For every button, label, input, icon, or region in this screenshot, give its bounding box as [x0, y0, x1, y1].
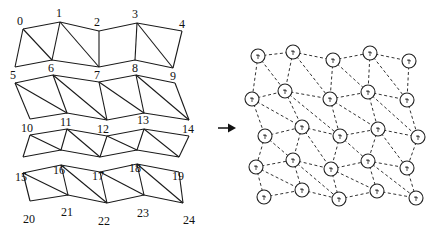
graph-node	[409, 191, 423, 205]
graph-node	[371, 122, 385, 136]
graph-node	[332, 192, 346, 206]
graph-edge	[331, 169, 377, 191]
graph-edge	[256, 167, 302, 190]
graph-node	[278, 84, 292, 98]
graph-node	[370, 184, 384, 198]
graph-edge	[370, 53, 407, 100]
graph-node	[295, 120, 309, 134]
graph-edges	[252, 52, 418, 199]
graph-edge	[293, 52, 330, 99]
graph-node	[363, 46, 377, 60]
graph-node	[257, 190, 271, 204]
graph-node	[400, 93, 414, 107]
graph-node	[249, 160, 263, 174]
graph-node	[295, 183, 309, 197]
graph-node	[400, 161, 414, 175]
graph-node	[402, 54, 416, 68]
graph-node	[245, 92, 259, 106]
graph-node	[411, 130, 425, 144]
graph-node	[326, 53, 340, 67]
graph-nodes	[245, 45, 425, 206]
graph-node	[333, 129, 347, 143]
dual-graph	[0, 0, 446, 233]
graph-edge	[252, 99, 302, 127]
graph-node	[323, 92, 337, 106]
diagram-canvas: 0123456789101112131415161718192021222324	[0, 0, 446, 233]
graph-node	[286, 45, 300, 59]
graph-node	[324, 162, 338, 176]
graph-node	[258, 129, 272, 143]
graph-node	[361, 85, 375, 99]
graph-node	[361, 154, 375, 168]
graph-node	[251, 49, 265, 63]
graph-node	[286, 153, 300, 167]
